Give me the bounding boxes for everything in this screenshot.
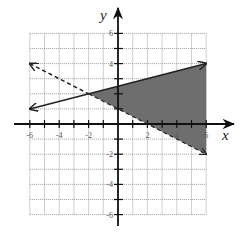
coordinate-plane: -6-4-224664-2-4-6 x y — [0, 0, 244, 241]
x-tick-label: -2 — [85, 131, 92, 140]
x-tick-label: 2 — [145, 131, 149, 140]
y-tick-label: 4 — [109, 60, 113, 69]
y-axis-label: y — [98, 7, 107, 23]
y-tick-label: -2 — [106, 150, 113, 159]
y-tick-label: -6 — [106, 211, 113, 220]
y-tick-label: -4 — [106, 180, 113, 189]
x-tick-label: -6 — [26, 131, 33, 140]
x-axis-label: x — [221, 127, 229, 143]
x-tick-label: 4 — [175, 131, 179, 140]
x-tick-label: 6 — [204, 131, 208, 140]
y-tick-label: 6 — [109, 29, 113, 38]
x-tick-label: -4 — [56, 131, 63, 140]
